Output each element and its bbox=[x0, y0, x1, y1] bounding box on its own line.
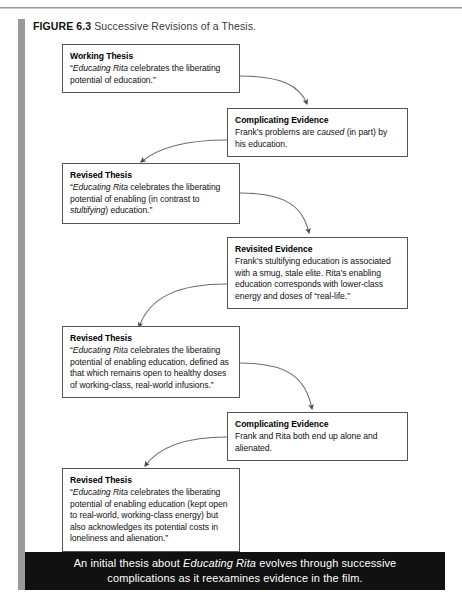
node-title: Complicating Evidence bbox=[235, 114, 400, 126]
node-body: Frank and Rita both end up alone and ali… bbox=[235, 431, 400, 454]
node-working-thesis: Working Thesis “Educating Rita celebrate… bbox=[62, 44, 240, 93]
connector-6 bbox=[145, 437, 227, 466]
figure-caption-text: An initial thesis about Educating Rita e… bbox=[39, 556, 431, 586]
connector-4 bbox=[139, 284, 227, 327]
node-title: Revised Thesis bbox=[70, 474, 232, 486]
node-title: Revised Thesis bbox=[70, 169, 232, 181]
node-title: Working Thesis bbox=[70, 50, 232, 62]
node-title: Revisited Evidence bbox=[235, 243, 400, 255]
node-revised-thesis-2: Revised Thesis “Educating Rita celebrate… bbox=[62, 326, 240, 398]
figure-number: FIGURE 6.3 bbox=[33, 20, 91, 32]
node-body: “Educating Rita celebrates the liberatin… bbox=[70, 182, 232, 217]
connector-2 bbox=[141, 140, 227, 162]
node-complicating-evidence-1: Complicating Evidence Frank’s problems a… bbox=[227, 108, 408, 157]
figure-header: FIGURE 6.3 Successive Revisions of a The… bbox=[33, 20, 256, 32]
connector-5 bbox=[240, 363, 312, 409]
page-edge-line-secondary bbox=[0, 8, 462, 9]
node-body: “Educating Rita celebrates the liberatin… bbox=[70, 345, 232, 391]
connector-3 bbox=[240, 193, 309, 233]
node-body: “Educating Rita celebrates the liberatin… bbox=[70, 487, 232, 545]
node-body: Frank’s stultifying education is associa… bbox=[235, 256, 400, 302]
node-revised-thesis-3: Revised Thesis “Educating Rita celebrate… bbox=[62, 468, 240, 552]
connector-1 bbox=[240, 76, 307, 104]
node-revisited-evidence: Revisited Evidence Frank’s stultifying e… bbox=[227, 237, 408, 309]
node-revised-thesis-1: Revised Thesis “Educating Rita celebrate… bbox=[62, 163, 240, 224]
node-title: Revised Thesis bbox=[70, 332, 232, 344]
node-complicating-evidence-2: Complicating Evidence Frank and Rita bot… bbox=[227, 412, 408, 461]
node-body: “Educating Rita celebrates the liberatin… bbox=[70, 63, 232, 86]
figure-side-rule bbox=[18, 19, 25, 590]
node-title: Complicating Evidence bbox=[235, 418, 400, 430]
figure-title: Successive Revisions of a Thesis. bbox=[94, 20, 256, 32]
figure-caption-bar: An initial thesis about Educating Rita e… bbox=[25, 552, 445, 590]
node-body: Frank’s problems are caused (in part) by… bbox=[235, 127, 400, 150]
